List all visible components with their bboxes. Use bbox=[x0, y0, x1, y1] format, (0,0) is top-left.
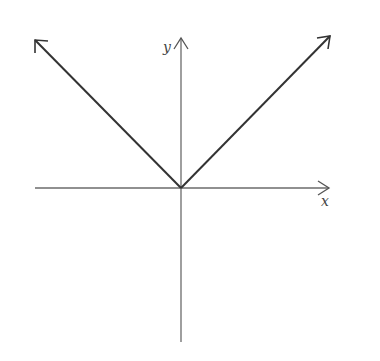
absolute-value-curve bbox=[35, 36, 330, 188]
y-axis bbox=[174, 38, 188, 342]
graph-canvas: y x bbox=[0, 0, 380, 361]
y-axis-label: y bbox=[162, 39, 172, 55]
x-axis-label: x bbox=[321, 193, 329, 209]
